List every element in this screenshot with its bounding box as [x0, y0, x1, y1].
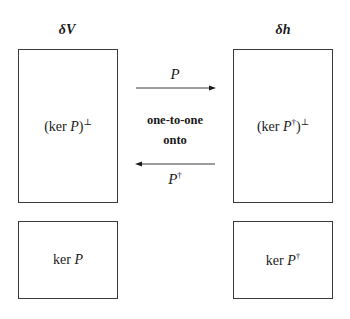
forward-arrow-icon: [136, 86, 216, 91]
backward-arrow-icon: [135, 162, 215, 167]
arrows-layer: [0, 0, 350, 319]
